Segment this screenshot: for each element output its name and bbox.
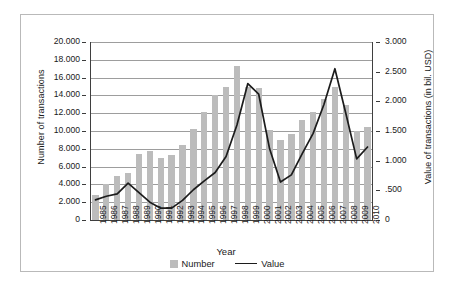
secondary-y-axis-tick-mark [376, 72, 380, 73]
chart-plot-wrapper: Number of transactions Value of transact… [21, 15, 433, 271]
secondary-y-axis-tick-mark [376, 161, 380, 162]
y-axis-tick-label: 12.000 [54, 108, 80, 117]
x-axis-tick-label: 1995 [208, 205, 217, 224]
y-axis-tick-label: 6.000 [58, 162, 80, 171]
secondary-y-axis-tick-label: 1.000 [385, 156, 407, 165]
y-axis-tick-mark [82, 60, 86, 61]
legend-item-number: Number [170, 259, 215, 269]
x-axis-tick-label: 2010 [372, 205, 381, 224]
secondary-y-axis-tick-label: 0 [385, 215, 390, 224]
secondary-y-axis-tick-label: .500 [385, 185, 402, 194]
secondary-y-axis-tick-labels: 0.5001.0001.5002.0002.5003.000 [376, 15, 426, 235]
x-axis-tick-label: 1991 [165, 205, 174, 224]
chart-figure: Number of transactions Value of transact… [20, 14, 434, 272]
secondary-y-axis-tick-label: 3.000 [385, 37, 407, 46]
secondary-y-axis-tick-label: 2.000 [385, 96, 407, 105]
y-axis-tick-mark [82, 113, 86, 114]
secondary-y-axis-tick-mark [376, 131, 380, 132]
y-axis-tick-label: 14.000 [54, 90, 80, 99]
x-axis-tick-label: 2005 [317, 205, 326, 224]
x-axis-tick-label: 1996 [219, 205, 228, 224]
x-axis-tick-label: 2006 [328, 205, 337, 224]
secondary-y-axis-tick-mark [376, 101, 380, 102]
y-axis-tick-label: 16.000 [54, 73, 80, 82]
x-axis-tick-label: 1987 [121, 205, 130, 224]
line-series-value [90, 42, 373, 220]
y-axis-tick-mark [82, 184, 86, 185]
x-axis-tick-label: 1988 [132, 205, 141, 224]
x-axis-tick-label: 1985 [99, 205, 108, 224]
y-axis-tick-mark [82, 131, 86, 132]
plot-area [90, 42, 373, 220]
secondary-y-axis-tick-mark [376, 190, 380, 191]
x-axis-tick-label: 2001 [274, 205, 283, 224]
y-axis-tick-mark [82, 167, 86, 168]
y-axis-tick-mark [82, 202, 86, 203]
chart-legend: Number Value [21, 258, 433, 269]
x-axis-title: Year [61, 246, 391, 257]
x-axis-tick-label: 1989 [143, 205, 152, 224]
x-axis-tick-label: 2004 [306, 205, 315, 224]
x-axis-tick-label: 2008 [350, 205, 359, 224]
y-axis-tick-mark [82, 220, 86, 221]
x-axis-tick-label: 1993 [187, 205, 196, 224]
x-axis-tick-label: 1997 [230, 205, 239, 224]
x-axis-tick-label: 1999 [252, 205, 261, 224]
x-axis-tick-label: 2002 [284, 205, 293, 224]
x-axis-tick-label: 1992 [176, 205, 185, 224]
x-axis-tick-label: 2003 [295, 205, 304, 224]
x-axis-tick-label: 2009 [361, 205, 370, 224]
y-axis-tick-label: 18.000 [54, 55, 80, 64]
x-axis-tick-label: 2000 [263, 205, 272, 224]
y-axis-tick-label: 4.000 [58, 179, 80, 188]
x-axis-tick-label: 1986 [110, 205, 119, 224]
x-axis-tick-label: 1998 [241, 205, 250, 224]
y-axis-tick-label: 10.000 [54, 126, 80, 135]
legend-line-swatch-icon [235, 263, 257, 264]
secondary-y-axis-tick-mark [376, 42, 380, 43]
x-axis-tick-label: 1994 [197, 205, 206, 224]
y-axis-tick-label: 0 [75, 215, 80, 224]
x-axis-tick-label: 1990 [154, 205, 163, 224]
y-axis-tick-mark [82, 95, 86, 96]
y-axis-tick-label: 20.000 [54, 37, 80, 46]
value-line-path [95, 69, 367, 208]
secondary-y-axis-tick-label: 2.500 [385, 67, 407, 76]
y-axis-tick-mark [82, 42, 86, 43]
y-axis-tick-mark [82, 149, 86, 150]
legend-item-value: Value [235, 259, 284, 269]
legend-label-number: Number [182, 259, 215, 269]
y-axis-tick-labels: 02.0004.0006.0008.00010.00012.00014.0001… [43, 15, 88, 235]
legend-square-swatch-icon [170, 260, 178, 268]
y-axis-tick-mark [82, 78, 86, 79]
legend-label-value: Value [261, 259, 284, 269]
y-axis-tick-label: 2.000 [58, 197, 80, 206]
y-axis-tick-label: 8.000 [58, 144, 80, 153]
x-axis-tick-label: 2007 [339, 205, 348, 224]
secondary-y-axis-tick-label: 1.500 [385, 126, 407, 135]
